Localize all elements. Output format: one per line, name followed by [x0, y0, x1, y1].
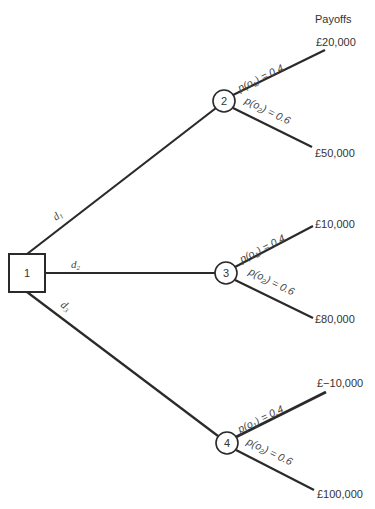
- decision-node-1: 1: [9, 254, 45, 292]
- decision-label-d1: d1: [50, 208, 66, 225]
- chance-node-4: 4: [216, 432, 238, 454]
- prob-label-node4-o2: p(o2) = 0.6: [244, 435, 295, 469]
- chance-node-label: 4: [224, 437, 230, 449]
- payoff-node4-o2: £100,000: [317, 488, 363, 500]
- chance-node-label: 3: [223, 267, 229, 279]
- edge-d1: [27, 108, 216, 254]
- payoff-node3-o2: £80,000: [315, 313, 355, 325]
- chance-node-label: 2: [221, 95, 227, 107]
- prob-label-node2-o1: p(o1) = 0.4: [235, 61, 286, 95]
- prob-label-node3-o1: p(o1) = 0.4: [237, 232, 288, 266]
- prob-label-node3-o2: p(o2) = 0.6: [246, 265, 297, 299]
- chance-node-3: 3: [215, 262, 237, 284]
- payoff-node4-o1: £−10,000: [317, 377, 363, 389]
- edge-d3: [27, 292, 218, 436]
- decision-label-d3: d3: [58, 298, 74, 315]
- payoff-node2-o2: £50,000: [315, 147, 355, 159]
- payoffs-header: Payoffs: [315, 13, 352, 25]
- prob-label-node2-o2: p(o2) = 0.6: [242, 94, 293, 128]
- payoff-node3-o1: £10,000: [315, 218, 355, 230]
- chance-node-2: 2: [213, 90, 235, 112]
- prob-label-node4-o1: p(o1) = 0.4: [235, 402, 286, 436]
- decision-tree: 1 2 3 4 d1 d2 d3 p(o1) = 0.4 p(o2) = 0.6…: [0, 0, 375, 509]
- payoff-node2-o1: £20,000: [316, 36, 356, 48]
- decision-label-d2: d2: [71, 258, 81, 272]
- decision-node-label: 1: [24, 267, 30, 279]
